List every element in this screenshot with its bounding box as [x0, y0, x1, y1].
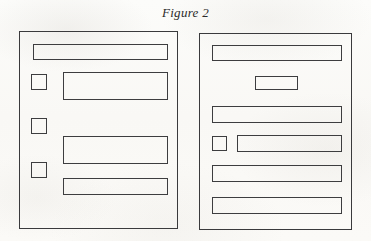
- right-panel-text-block-3: [212, 165, 342, 182]
- right-panel-text-block-2: [237, 135, 342, 152]
- figure-container: Figure 2: [0, 0, 371, 241]
- left-panel-bullet-marker-2: [31, 118, 47, 134]
- right-panel-text-block-4: [212, 197, 342, 214]
- left-panel-text-block-1: [63, 72, 168, 100]
- right-panel-bullet-marker-1: [212, 136, 227, 151]
- left-panel-text-block-3: [63, 178, 168, 195]
- figure-caption: Figure 2: [0, 5, 371, 20]
- left-panel-header-bar: [33, 44, 168, 60]
- right-panel-header-bar: [212, 45, 342, 61]
- right-panel-centered-label-box: [255, 76, 298, 90]
- left-panel-bullet-marker-3: [31, 162, 47, 178]
- left-panel-bullet-marker-1: [31, 74, 47, 90]
- left-panel-text-block-2: [63, 136, 168, 164]
- right-panel-text-block-1: [212, 106, 342, 123]
